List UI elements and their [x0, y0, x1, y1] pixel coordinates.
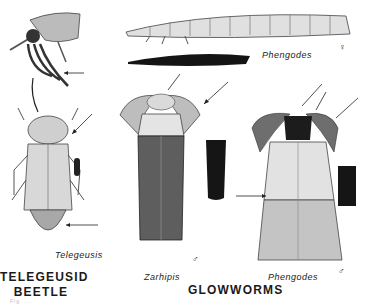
- zarhipis-male-illustration: [100, 70, 240, 240]
- phengodes-female-larva-illustration: [110, 0, 366, 80]
- specimen-label-phengodes-female: Phengodes: [262, 50, 312, 60]
- group-heading-telegeusid: TELEGEUSID BEETLE: [0, 270, 82, 300]
- group-heading-glowworms: GLOWWORMS: [188, 283, 283, 298]
- male-symbol-zarhipis: ♂: [192, 254, 199, 264]
- telegeusis-adult-illustration: [0, 100, 110, 245]
- specimen-label-zarhipis: Zarhipis: [144, 272, 180, 282]
- phengodes-male-illustration: [230, 70, 366, 260]
- male-symbol-phengodes: ♂: [338, 266, 345, 276]
- female-symbol: ♀: [339, 42, 346, 52]
- figure-caption-faint: Fig. ...: [10, 298, 32, 304]
- specimen-label-telegeusis: Telegeusis: [55, 250, 103, 260]
- heading-line-1: TELEGEUSID: [0, 270, 82, 285]
- specimen-label-phengodes-male: Phengodes: [268, 272, 318, 282]
